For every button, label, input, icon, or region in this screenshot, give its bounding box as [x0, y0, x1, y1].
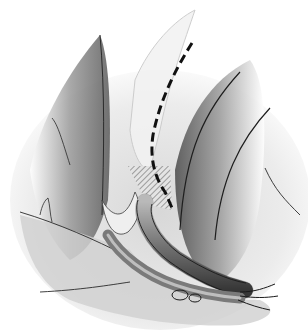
- surgical-illustration: [0, 0, 308, 332]
- illustration-canvas: [0, 0, 308, 332]
